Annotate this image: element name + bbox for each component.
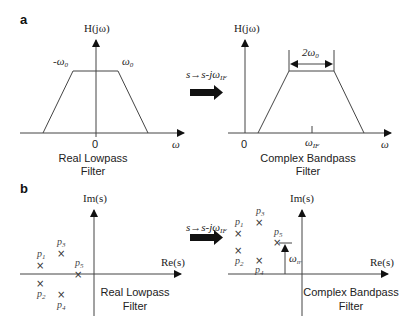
frequency-shift-transform-a: s→s-jωIF	[186, 68, 227, 100]
pole-p4-label: p4	[56, 299, 66, 312]
transform-label: s→s-jωIF	[186, 68, 227, 82]
re-s-label: Re(s)	[161, 256, 185, 269]
caption-real-lowpass: Real Lowpass	[100, 286, 170, 298]
pole-p3-marker: ×	[255, 217, 263, 228]
caption-complex-bandpass: Complex Bandpass	[303, 286, 399, 298]
filter-transformation-diagram: a H(jω) -ω0 ω0 0 ω Real Lowpass Filter s…	[0, 0, 413, 333]
h-jw-label: H(jω)	[234, 22, 260, 35]
panel-b-letter: b	[20, 181, 28, 196]
omega-axis-label: ω	[381, 138, 389, 150]
real-lowpass-pole-plot: Im(s) Re(s) × p1 × p2 × p3 × p4 × p5 Rea…	[20, 192, 185, 316]
h-jw-label: H(jω)	[84, 22, 110, 35]
transform-label: s→s-jωIF	[186, 221, 227, 235]
origin-label: 0	[92, 138, 98, 150]
caption-filter: Filter	[81, 165, 106, 177]
origin-label: 0	[241, 138, 247, 150]
shift-arrow-head-icon	[281, 244, 289, 252]
complex-bandpass-pole-plot: Im(s) Re(s) × p1 × p2 × p3 × p4 × p5 ωIF…	[228, 192, 399, 316]
pole-p5-marker: ×	[74, 269, 82, 280]
caption-real-lowpass: Real Lowpass	[58, 152, 128, 164]
thick-right-arrow-icon	[190, 85, 223, 100]
im-s-label: Im(s)	[83, 192, 107, 205]
omega-axis-label: ω	[172, 138, 180, 150]
pole-p1-marker: ×	[234, 228, 242, 239]
real-lowpass-response-plot: H(jω) -ω0 ω0 0 ω Real Lowpass Filter	[20, 22, 184, 177]
bandwidth-label: 2ω0	[302, 46, 319, 60]
caption-filter: Filter	[339, 300, 364, 312]
shift-label: ωIF	[289, 252, 302, 265]
re-s-label: Re(s)	[370, 256, 394, 269]
bandwidth-right-arrow-icon	[325, 60, 333, 68]
pole-p3-marker: ×	[57, 248, 65, 259]
pole-p2-label: p2	[36, 288, 46, 301]
bandwidth-left-arrow-icon	[290, 60, 298, 68]
caption-filter: Filter	[123, 300, 148, 312]
panel-a-letter: a	[20, 12, 28, 27]
pole-p1-marker: ×	[36, 260, 44, 271]
im-s-label: Im(s)	[290, 192, 314, 205]
neg-cutoff-label: -ω0	[53, 55, 68, 69]
frequency-shift-transform-b: s→s-jωIF	[186, 221, 227, 245]
caption-complex-bandpass: Complex Bandpass	[260, 152, 356, 164]
bandpass-trapezoid	[258, 71, 364, 133]
pole-p2-label: p2	[234, 255, 244, 268]
pos-cutoff-label: ω0	[122, 55, 134, 69]
center-freq-label: ωIF	[305, 136, 320, 150]
caption-filter: Filter	[296, 165, 321, 177]
complex-bandpass-response-plot: 2ω0 H(jω) 0 ωIF ω Complex Bandpass Filte…	[228, 22, 391, 177]
